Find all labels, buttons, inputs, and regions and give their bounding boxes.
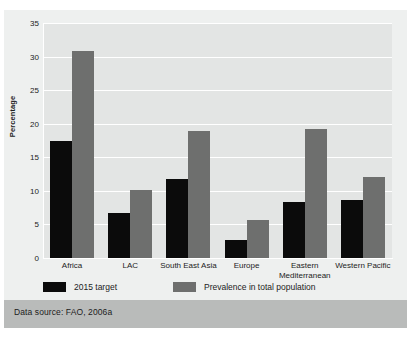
gridline <box>43 57 392 58</box>
bar <box>305 129 327 258</box>
legend-item: Prevalence in total population <box>173 280 316 294</box>
category-label: Western Pacific <box>324 261 402 271</box>
x-axis-line <box>43 258 393 259</box>
bar <box>283 202 305 258</box>
gridline <box>43 157 392 158</box>
bar <box>72 51 94 258</box>
y-axis-line <box>43 23 44 259</box>
y-axis-title: Percentage <box>8 77 17 157</box>
y-tick-label: 5 <box>9 220 39 229</box>
bar <box>225 240 247 258</box>
bar <box>188 131 210 258</box>
bar <box>363 177 385 258</box>
y-tick-label: 10 <box>9 186 39 195</box>
plot-area <box>43 23 392 258</box>
bar <box>50 141 72 258</box>
legend-swatch <box>173 282 196 292</box>
legend-swatch <box>43 282 66 292</box>
legend-item: 2015 target <box>43 280 117 294</box>
bar <box>108 213 130 258</box>
legend-label: Prevalence in total population <box>204 282 316 292</box>
chart-figure: 05101520253035 Percentage AfricaLACSouth… <box>0 0 411 346</box>
bar <box>341 200 363 258</box>
top-crop-strip <box>0 0 411 8</box>
y-tick-label: 30 <box>9 52 39 61</box>
gridline <box>43 23 392 24</box>
y-tick-label: 35 <box>9 19 39 28</box>
gridline <box>43 124 392 125</box>
gridline <box>43 224 392 225</box>
bar <box>247 220 269 258</box>
gridline <box>43 191 392 192</box>
bar <box>130 190 152 258</box>
bar <box>166 179 188 258</box>
gridline <box>43 90 392 91</box>
data-source-note: Data source: FAO, 2006a <box>14 307 112 317</box>
legend-label: 2015 target <box>74 282 117 292</box>
